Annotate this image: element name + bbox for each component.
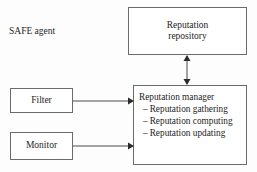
- connector-filter-to-manager-arrow: [73, 93, 135, 109]
- diagram-canvas: SAFE agent Reputation repository Filter …: [0, 0, 257, 172]
- list-dash-icon: –: [143, 116, 148, 126]
- reputation-repository-line1: Reputation: [167, 20, 209, 31]
- list-item: –Reputation gathering: [139, 104, 246, 116]
- list-item-label: Reputation updating: [150, 128, 226, 138]
- filter-label: Filter: [31, 95, 52, 106]
- list-item: –Reputation computing: [139, 116, 246, 128]
- list-item-label: Reputation computing: [150, 116, 233, 126]
- list-dash-icon: –: [143, 104, 148, 114]
- node-reputation-repository: Reputation repository: [128, 7, 247, 55]
- reputation-manager-function-list: –Reputation gathering –Reputation comput…: [139, 104, 246, 140]
- connector-manager-to-repository-double-arrow: [181, 54, 193, 86]
- list-item-label: Reputation gathering: [150, 104, 228, 114]
- list-dash-icon: –: [143, 128, 148, 138]
- node-monitor: Monitor: [10, 132, 73, 160]
- reputation-repository-line2: repository: [167, 31, 209, 42]
- monitor-label: Monitor: [26, 140, 57, 151]
- node-reputation-manager: Reputation manager –Reputation gathering…: [133, 85, 247, 165]
- list-item: –Reputation updating: [139, 128, 246, 140]
- node-filter: Filter: [10, 88, 73, 113]
- safe-agent-label: SAFE agent: [9, 26, 55, 36]
- reputation-repository-text: Reputation repository: [167, 20, 209, 42]
- connector-monitor-to-manager-arrow: [73, 138, 135, 154]
- reputation-manager-heading: Reputation manager: [139, 92, 246, 103]
